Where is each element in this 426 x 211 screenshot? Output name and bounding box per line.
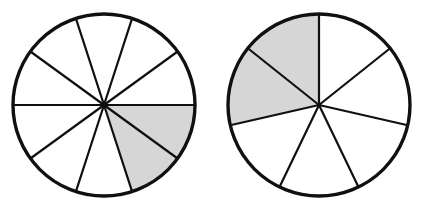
- fraction-circles-canvas: [0, 0, 426, 211]
- right-fraction-circle: [228, 14, 410, 196]
- fraction-circles-figure: [0, 0, 426, 211]
- left-fraction-circle: [13, 14, 195, 196]
